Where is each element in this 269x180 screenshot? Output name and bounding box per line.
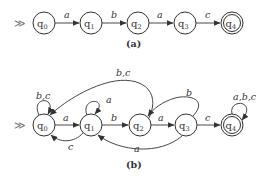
diagram-a: ≫ a b a c q0 q1 q2 q3 q4 xyxy=(14,9,243,49)
caption-a: (a) xyxy=(126,38,141,49)
automata-figure: ≫ a b a c q0 q1 q2 q3 q4 xyxy=(0,0,269,180)
edge-b-q0-loop xyxy=(37,101,50,115)
state-q4-accepting: q4 xyxy=(221,114,243,136)
edge-label: a,b,c xyxy=(233,91,257,102)
state-q2: q2 xyxy=(129,114,151,136)
state-q4-accepting: q4 xyxy=(221,12,243,34)
edge-b-q3-q1 xyxy=(98,135,182,149)
edge-b-q1-loop xyxy=(86,101,99,115)
state-q2: q2 xyxy=(127,12,149,34)
edge-label: a xyxy=(64,9,70,20)
edge-label: a xyxy=(106,94,112,105)
state-q3: q3 xyxy=(175,114,197,136)
edge-label: c xyxy=(205,112,211,123)
state-q0: q0 xyxy=(33,12,55,34)
edge-label: a xyxy=(134,143,140,154)
edge-label: b xyxy=(186,87,192,98)
edge-label: c xyxy=(68,141,74,152)
state-q3: q3 xyxy=(174,12,196,34)
edge-b-q1-q0 xyxy=(51,133,83,141)
edge-label: a xyxy=(158,112,164,123)
edge-label: a xyxy=(63,112,69,123)
edge-b-q3-q2 xyxy=(148,97,199,116)
start-marker-b: ≫ xyxy=(14,119,26,132)
edge-label: b,c xyxy=(116,67,131,78)
edge-label: b xyxy=(111,9,117,20)
edge-label: c xyxy=(205,9,211,20)
edge-label: b xyxy=(111,112,117,123)
edge-label: a xyxy=(157,9,163,20)
state-q1: q1 xyxy=(80,12,102,34)
start-marker-a: ≫ xyxy=(14,17,26,30)
state-q0: q0 xyxy=(33,114,55,136)
caption-b: (b) xyxy=(126,159,142,170)
state-q1: q1 xyxy=(80,114,102,136)
diagram-b: ≫ b,c a a c b b,c a b a c a,b,c xyxy=(14,67,257,170)
edge-label: b,c xyxy=(36,90,51,101)
